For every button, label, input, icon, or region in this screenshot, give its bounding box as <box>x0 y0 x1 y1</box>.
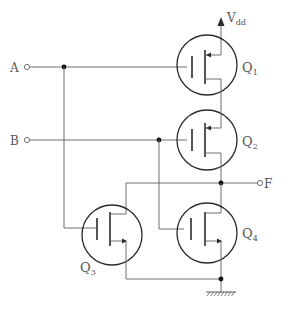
q2-label: Q2 <box>242 134 258 151</box>
vdd-label: Vdd <box>226 11 246 27</box>
output-f-label: F <box>264 177 272 191</box>
transistor-q3: Q3 <box>80 205 221 279</box>
q2-arrow-icon <box>206 126 211 131</box>
vdd-supply: Vdd <box>218 11 246 48</box>
input-b: B <box>10 134 187 229</box>
input-a-terminal[interactable] <box>24 64 29 69</box>
q1-arrow-icon <box>206 53 211 58</box>
q4-source <box>206 241 221 292</box>
ground-hatch-icon <box>207 292 235 296</box>
output-f: F <box>126 177 272 214</box>
q3-label: Q3 <box>80 260 96 277</box>
output-f-terminal[interactable] <box>257 180 262 185</box>
vdd-arrow-icon <box>218 17 225 26</box>
q4-label: Q4 <box>242 226 258 243</box>
transistor-q1: Q1 <box>177 35 258 110</box>
transistor-q2: Q2 <box>177 110 258 183</box>
circuit-diagram: Vdd A B Q1 Q2 <box>0 0 288 311</box>
q4-body <box>177 203 237 263</box>
input-b-terminal[interactable] <box>24 137 29 142</box>
q1-body <box>177 35 237 95</box>
ground-node <box>219 277 224 282</box>
q1-label: Q1 <box>242 60 258 77</box>
input-a-label: A <box>9 61 19 75</box>
input-a: A <box>9 61 187 228</box>
input-b-label: B <box>10 134 19 148</box>
